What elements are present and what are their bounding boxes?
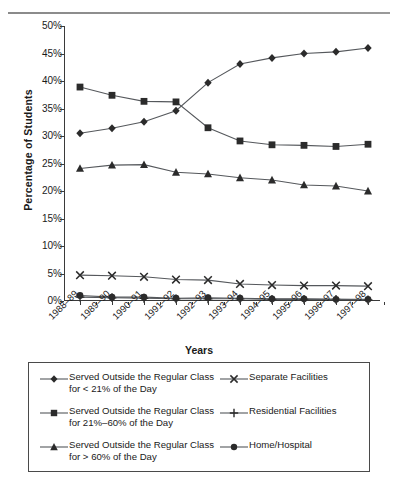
y-tick-label: 5% xyxy=(28,269,62,279)
x-tick-mark-minor xyxy=(384,302,385,305)
y-tick-mark xyxy=(60,164,64,165)
legend-item[interactable]: Served Outside the Regular Class for < 2… xyxy=(39,371,219,394)
y-tick-mark xyxy=(60,136,64,137)
y-tick-mark xyxy=(60,81,64,82)
legend-label: Separate Facilities xyxy=(249,371,328,383)
line-chart: Percentage of Students 0%5%10%15%20%25%3… xyxy=(0,16,398,346)
chart-page: Percentage of Students 0%5%10%15%20%25%3… xyxy=(0,0,398,485)
legend-item[interactable]: Home/Hospital xyxy=(219,439,369,453)
x-tick-mark xyxy=(336,301,337,305)
data-point xyxy=(237,138,244,145)
y-tick-mark xyxy=(60,54,64,55)
legend-label: Served Outside the Regular Class for < 2… xyxy=(69,371,214,394)
y-tick-label: 15% xyxy=(28,214,62,224)
x-axis-title: Years xyxy=(0,344,398,356)
y-tick-label: 35% xyxy=(28,104,62,114)
legend-item[interactable]: Served Outside the Regular Class for > 6… xyxy=(39,439,219,462)
triangle-marker-icon xyxy=(39,441,69,453)
x-tick-mark xyxy=(272,301,273,305)
x-tick-mark xyxy=(176,301,177,305)
series-plot xyxy=(64,26,380,301)
data-point xyxy=(205,124,212,131)
x-tick-mark xyxy=(304,301,305,305)
data-point xyxy=(365,141,372,148)
diamond-marker-icon xyxy=(39,373,69,385)
y-tick-label: 20% xyxy=(28,186,62,196)
data-point xyxy=(76,129,83,137)
y-tick-label: 40% xyxy=(28,76,62,86)
data-point xyxy=(109,92,116,99)
legend-label: Served Outside the Regular Class for 21%… xyxy=(69,405,214,428)
legend-label: Served Outside the Regular Class for > 6… xyxy=(69,439,214,462)
x-tick-mark xyxy=(240,301,241,305)
legend-item[interactable]: Residential Facilities xyxy=(219,405,369,419)
data-point xyxy=(332,48,339,56)
data-point xyxy=(301,142,308,149)
data-point xyxy=(77,84,84,91)
y-tick-label: 45% xyxy=(28,49,62,59)
data-point xyxy=(333,143,340,150)
legend-item[interactable]: Separate Facilities xyxy=(219,371,369,385)
y-tick-label: 10% xyxy=(28,241,62,251)
x-tick-mark xyxy=(144,301,145,305)
x-tick-mark xyxy=(112,301,113,305)
y-tick-mark xyxy=(60,26,64,27)
data-point xyxy=(364,44,371,52)
legend-label: Home/Hospital xyxy=(249,439,312,451)
data-point xyxy=(268,54,275,62)
square-marker-icon xyxy=(39,407,69,419)
series-2 xyxy=(77,84,372,150)
plus-marker-icon xyxy=(219,407,249,419)
y-tick-mark xyxy=(60,191,64,192)
x-tick-mark xyxy=(208,301,209,305)
data-point xyxy=(173,99,180,106)
data-point xyxy=(141,98,148,105)
x-tick-mark xyxy=(368,301,369,305)
y-axis-tick-labels: 0%5%10%15%20%25%30%35%40%45%50% xyxy=(28,16,62,291)
header-divider xyxy=(8,12,390,14)
plot-area xyxy=(64,26,380,301)
data-point xyxy=(300,50,307,58)
legend-label: Residential Facilities xyxy=(249,405,336,417)
chart-legend: Served Outside the Regular Class for < 2… xyxy=(28,362,370,472)
series-3 xyxy=(76,160,372,194)
data-point xyxy=(269,141,276,148)
data-point xyxy=(236,60,243,68)
y-tick-mark xyxy=(60,219,64,220)
cross-marker-icon xyxy=(219,373,249,385)
circle-marker-icon xyxy=(219,441,249,453)
y-tick-mark xyxy=(60,274,64,275)
data-point xyxy=(140,118,147,126)
y-tick-label: 25% xyxy=(28,159,62,169)
y-tick-mark xyxy=(60,109,64,110)
legend-items: Served Outside the Regular Class for < 2… xyxy=(29,363,369,471)
legend-item[interactable]: Served Outside the Regular Class for 21%… xyxy=(39,405,219,428)
y-tick-label: 30% xyxy=(28,131,62,141)
series-1 xyxy=(76,44,371,137)
y-tick-label: 50% xyxy=(28,21,62,31)
x-tick-mark xyxy=(80,301,81,305)
data-point xyxy=(108,124,115,132)
y-tick-mark xyxy=(60,246,64,247)
